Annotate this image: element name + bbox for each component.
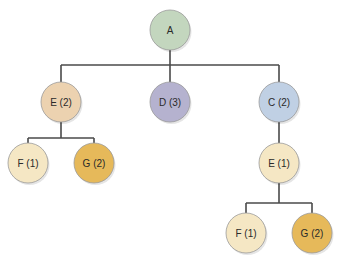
tree-node-a: A: [150, 10, 192, 52]
tree-node-g2b: G (2): [292, 213, 334, 255]
node-label: C (2): [268, 97, 290, 108]
tree-node-e2: E (2): [41, 82, 83, 124]
node-label: A: [167, 25, 174, 36]
tree-node-f1a: F (1): [8, 143, 50, 185]
node-label: D (3): [159, 97, 181, 108]
tree-node-g2a: G (2): [74, 143, 116, 185]
tree-diagram: AE (2)D (3)C (2)F (1)G (2)E (1)F (1)G (2…: [0, 0, 343, 266]
tree-node-e1: E (1): [259, 143, 301, 185]
node-label: F (1): [17, 158, 38, 169]
node-label: E (2): [50, 97, 72, 108]
tree-node-d3: D (3): [150, 82, 192, 124]
node-label: E (1): [268, 158, 290, 169]
tree-node-f1b: F (1): [226, 213, 268, 255]
node-label: G (2): [301, 228, 324, 239]
tree-node-c2: C (2): [259, 82, 301, 124]
node-label: F (1): [235, 228, 256, 239]
tree-nodes: AE (2)D (3)C (2)F (1)G (2)E (1)F (1)G (2…: [8, 10, 334, 255]
tree-edges: [28, 50, 312, 213]
node-label: G (2): [83, 158, 106, 169]
